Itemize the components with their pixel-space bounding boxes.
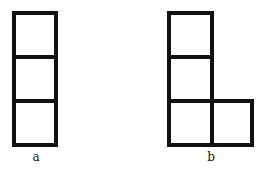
square-cell	[167, 55, 214, 103]
figure-label: b	[207, 150, 215, 164]
figure-label: a	[32, 150, 39, 164]
square-cell	[12, 11, 58, 59]
square-cell	[167, 11, 214, 59]
square-cell	[12, 99, 58, 147]
square-cell	[210, 99, 254, 147]
square-cell	[167, 99, 214, 147]
square-cell	[12, 55, 58, 103]
